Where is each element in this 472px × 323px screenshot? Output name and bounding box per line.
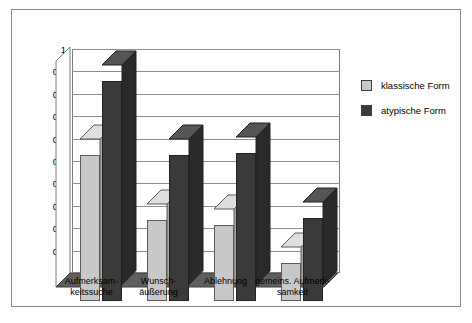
bar-front-face xyxy=(102,81,122,301)
plot-area xyxy=(72,49,340,273)
bar-front-face xyxy=(214,225,234,301)
chart-figure: 10,90,80,70,60,50,40,30,20,10 Aufmerksam… xyxy=(0,0,472,323)
legend-swatch-icon xyxy=(361,80,372,91)
bar xyxy=(236,139,256,287)
bar xyxy=(169,141,189,287)
gridline xyxy=(72,49,340,50)
chart-legend: klassische Formatypische Form xyxy=(361,80,471,130)
plot-left-wall xyxy=(56,47,70,287)
legend-item: atypische Form xyxy=(361,105,471,116)
bar xyxy=(80,141,100,287)
x-axis-tick: gemeins. Aufmerk- samkeit xyxy=(243,276,342,298)
bar xyxy=(102,67,122,287)
legend-item: klassische Form xyxy=(361,80,471,91)
legend-swatch-icon xyxy=(361,105,372,116)
legend-label: atypische Form xyxy=(381,105,446,116)
bar xyxy=(147,206,167,287)
chart-frame: 10,90,80,70,60,50,40,30,20,10 Aufmerksam… xyxy=(11,9,461,307)
bar xyxy=(303,204,323,287)
legend-label: klassische Form xyxy=(381,80,450,91)
